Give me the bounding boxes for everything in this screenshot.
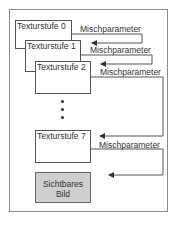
blend-parameter-label: Mischparameter xyxy=(80,24,141,34)
texture-stage-7: Texturstufe 7 xyxy=(35,130,91,163)
stage-label: Texturstufe 2 xyxy=(37,62,86,72)
stage-label: Texturstufe 7 xyxy=(37,131,86,141)
stage-label: Texturstufe 0 xyxy=(17,21,66,31)
blend-parameter-label: Mischparameter xyxy=(100,67,161,77)
ellipsis-dots xyxy=(61,100,64,119)
output-label: Sichtbares Bild xyxy=(36,179,90,199)
stage-label: Texturstufe 1 xyxy=(27,41,76,51)
visible-image-box: Sichtbares Bild xyxy=(35,172,91,203)
output-label-line2: Bild xyxy=(36,189,90,199)
output-label-line1: Sichtbares xyxy=(36,179,90,189)
texture-stage-2: Texturstufe 2 xyxy=(35,61,91,94)
blend-parameter-label: Mischparameter xyxy=(99,140,160,150)
blend-parameter-label: Mischparameter xyxy=(90,45,151,55)
